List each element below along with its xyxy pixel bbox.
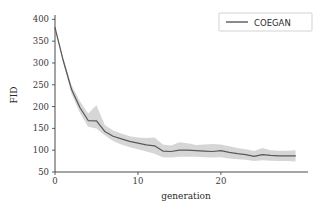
series-line-coegan [55, 28, 296, 157]
y-tick-label: 200 [33, 102, 49, 112]
y-axis-tick-labels: 50100150200250300350400 [33, 14, 49, 177]
x-axis-title: generation [161, 191, 211, 201]
line-chart: 50100150200250300350400 01020 FID genera… [0, 0, 320, 211]
y-axis-title: FID [9, 86, 19, 103]
x-tick-label: 0 [52, 176, 57, 186]
x-axis-tick-labels: 01020 [52, 176, 226, 186]
y-tick-label: 250 [33, 80, 49, 90]
confidence-band-coegan [55, 28, 296, 162]
y-tick-label: 300 [33, 58, 49, 68]
y-tick-label: 100 [33, 145, 49, 155]
figure-container: 50100150200250300350400 01020 FID genera… [0, 0, 320, 211]
x-tick-label: 10 [133, 176, 144, 186]
y-tick-label: 350 [33, 36, 49, 46]
y-tick-label: 150 [33, 123, 49, 133]
legend[interactable]: COEGAN [219, 13, 312, 31]
legend-label-coegan: COEGAN [254, 18, 291, 28]
x-tick-label: 20 [215, 176, 226, 186]
y-tick-label: 400 [33, 14, 49, 24]
y-tick-label: 50 [38, 167, 49, 177]
